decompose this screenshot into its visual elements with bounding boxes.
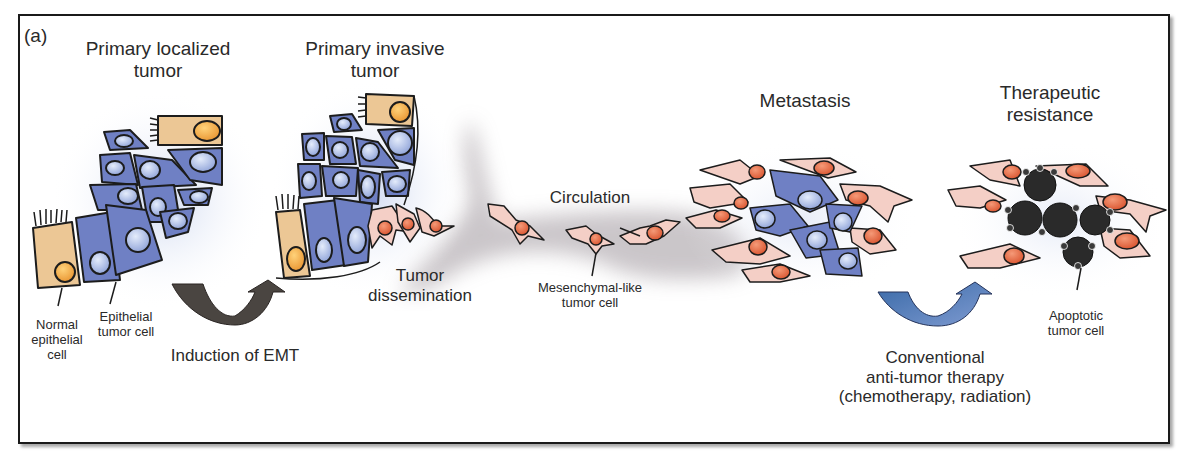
- stage-label-line: Therapeutic: [980, 82, 1120, 104]
- stage-label-line: tumor: [290, 60, 460, 82]
- pointer-normal-cell: [58, 288, 62, 306]
- label-circulation: Circulation: [540, 188, 640, 208]
- label-apoptotic-tumor-cell: Apoptotic tumor cell: [1036, 309, 1116, 339]
- label-conventional-therapy: Conventional anti-tumor therapy (chemoth…: [830, 348, 1040, 407]
- label-line: tumor cell: [90, 325, 162, 340]
- stage-label-line: tumor: [78, 60, 238, 82]
- label-line: Normal: [22, 318, 92, 333]
- stage-label-metastasis: Metastasis: [740, 90, 870, 112]
- label-epithelial-tumor-cell: Epithelial tumor cell: [90, 310, 162, 340]
- panel-label: (a): [24, 25, 47, 47]
- label-line: Apoptotic: [1036, 309, 1116, 324]
- emt-arrow-icon: [172, 280, 285, 325]
- label-line: (chemotherapy, radiation): [830, 387, 1040, 407]
- label-tumor-dissemination: Tumor dissemination: [355, 266, 485, 305]
- stage-label-line: Metastasis: [740, 90, 870, 112]
- stage-label-line: Primary localized: [78, 38, 238, 60]
- label-line: Mesenchymal-like: [525, 281, 655, 296]
- stage-label-line: resistance: [980, 104, 1120, 126]
- stage-label-primary-localized: Primary localized tumor: [78, 38, 238, 82]
- label-line: Epithelial: [90, 310, 162, 325]
- label-normal-epithelial-cell: Normal epithelial cell: [22, 318, 92, 363]
- label-line: tumor cell: [525, 296, 655, 311]
- label-line: cell: [22, 348, 92, 363]
- therapy-arrow-icon: [878, 282, 992, 326]
- label-line: dissemination: [355, 286, 485, 306]
- label-line: tumor cell: [1036, 324, 1116, 339]
- stage-label-primary-invasive: Primary invasive tumor: [290, 38, 460, 82]
- label-induction-of-emt: Induction of EMT: [160, 346, 310, 366]
- label-line: anti-tumor therapy: [830, 368, 1040, 388]
- label-line: Tumor: [355, 266, 485, 286]
- label-mesenchymal-like-tumor-cell: Mesenchymal-like tumor cell: [525, 281, 655, 311]
- label-line: epithelial: [22, 333, 92, 348]
- stage-label-therapeutic-resistance: Therapeutic resistance: [980, 82, 1120, 126]
- stage-label-line: Primary invasive: [290, 38, 460, 60]
- label-line: Conventional: [830, 348, 1040, 368]
